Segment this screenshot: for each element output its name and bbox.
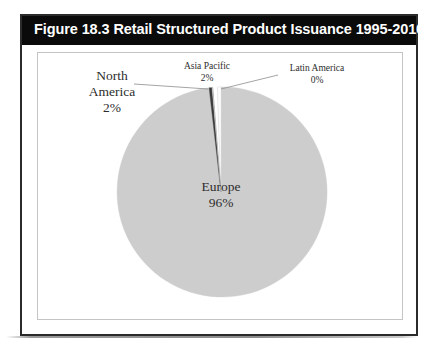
pie-value-north-america: 2%	[103, 100, 121, 115]
pie-value-latin-america: 0%	[311, 75, 324, 85]
pie-value-europe: 96%	[209, 195, 234, 210]
pie-value-asia-pacific: 2%	[201, 73, 214, 83]
pie-label-north-america-line2: America	[89, 84, 135, 99]
pie-label-europe: Europe	[202, 179, 241, 194]
pie-label-asia-pacific: Asia Pacific	[184, 61, 230, 71]
scanned-page: Figure 18.3 Retail Structured Product Is…	[0, 0, 438, 356]
leader-line-north-america	[134, 84, 208, 89]
pie-label-latin-america: Latin America	[290, 63, 345, 73]
pie-label-north-america-line1: North	[96, 68, 128, 83]
figure-frame: Figure 18.3 Retail Structured Product Is…	[20, 14, 418, 336]
pie-chart: North America 2% Asia Pacific 2% Latin A…	[22, 16, 420, 338]
leader-line-latin-america	[221, 75, 278, 89]
